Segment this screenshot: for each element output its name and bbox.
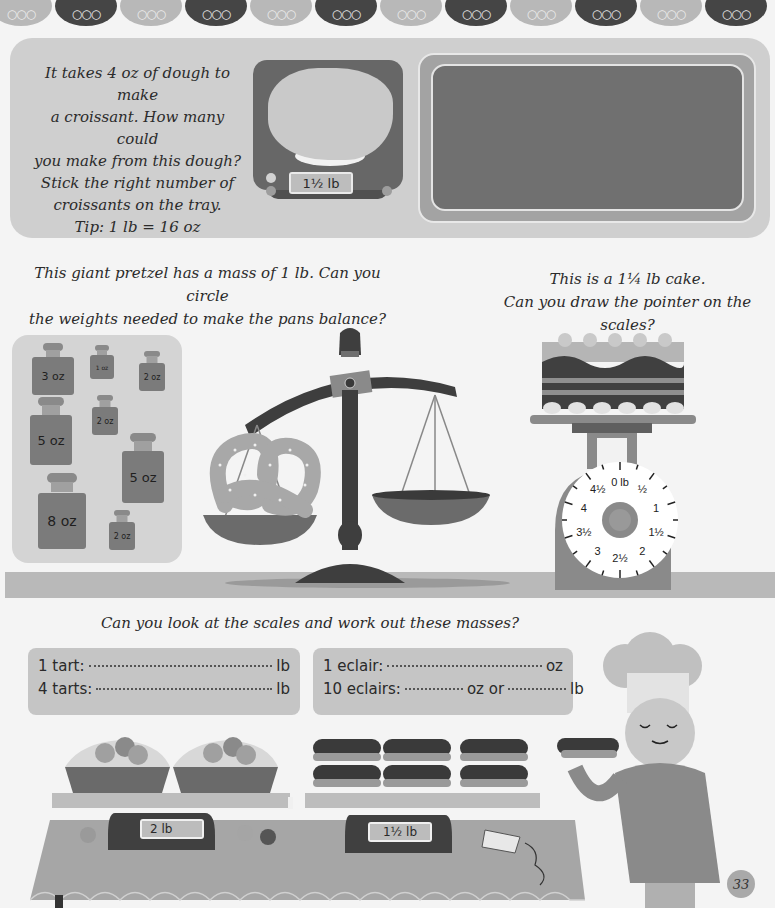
droplet-icon: ○○○ xyxy=(72,8,100,20)
weight-2oz[interactable]: 2 oz xyxy=(109,510,135,550)
droplet-icon: ○○○ xyxy=(462,8,490,20)
dial-label: 0 lb xyxy=(611,476,629,488)
answer-row: 10 eclairs: oz or lb xyxy=(323,678,563,701)
droplet-icon: ○○○ xyxy=(592,8,620,20)
dial-label: 3½ xyxy=(576,526,591,538)
scallop-decoration: ○○○ xyxy=(575,0,637,26)
weight-5oz[interactable]: 5 oz xyxy=(122,433,164,503)
masses-instructions: Can you look at the scales and work out … xyxy=(0,614,620,632)
croissant-instructions: It takes 4 oz of dough to make a croissa… xyxy=(30,62,245,238)
cake-instructions: This is a 1¼ lb cake. Can you draw the p… xyxy=(480,268,775,337)
dial-label: 2 xyxy=(639,545,645,557)
scale-knob-icon xyxy=(382,186,392,196)
dial-label: 4 xyxy=(581,502,587,514)
pretzel-icon xyxy=(218,441,313,510)
tart-icon xyxy=(65,737,170,793)
scallop-decoration: ○○○ xyxy=(120,0,182,26)
scallop-decoration: ○○○ xyxy=(640,0,702,26)
droplet-icon: ○○○ xyxy=(7,8,35,20)
scale-knob-icon xyxy=(266,173,276,183)
weights-panel: 3 oz 1 oz 2 oz 2 oz 5 oz 5 oz 8 oz 2 oz xyxy=(12,335,182,563)
answer-blank[interactable] xyxy=(96,688,272,690)
scallop-decoration: ○○○ xyxy=(315,0,377,26)
scallop-decoration: ○○○ xyxy=(250,0,312,26)
dough-blob xyxy=(268,68,393,160)
answer-row: 1 eclair: oz xyxy=(323,655,563,678)
tart-icon xyxy=(173,737,278,793)
weight-2oz[interactable]: 2 oz xyxy=(139,351,165,391)
scallop-decoration: ○○○ xyxy=(185,0,247,26)
droplet-icon: ○○○ xyxy=(527,8,555,20)
answer-row: 4 tarts: lb xyxy=(38,678,290,701)
weight-1oz[interactable]: 1 oz xyxy=(90,345,114,379)
sticker-drop-area[interactable] xyxy=(431,64,744,211)
droplet-icon: ○○○ xyxy=(657,8,685,20)
balance-scale-illustration xyxy=(195,325,495,590)
droplet-icon: ○○○ xyxy=(202,8,230,20)
eclair-scale-display: 1½ lb xyxy=(368,822,432,842)
dial-label: 1½ xyxy=(648,526,663,538)
droplet-icon: ○○○ xyxy=(267,8,295,20)
droplet-icon: ○○○ xyxy=(397,8,425,20)
dial-label: 2½ xyxy=(612,552,627,564)
weight-5oz[interactable]: 5 oz xyxy=(30,397,72,465)
scallop-decoration: ○○○ xyxy=(705,0,767,26)
pretzel-instructions: This giant pretzel has a mass of 1 lb. C… xyxy=(20,262,395,331)
droplet-icon: ○○○ xyxy=(137,8,165,20)
scallop-decoration: ○○○ xyxy=(0,0,52,26)
dial-label: 4½ xyxy=(590,483,605,495)
droplet-icon: ○○○ xyxy=(332,8,360,20)
scallop-decoration: ○○○ xyxy=(380,0,442,26)
scale-knob-icon xyxy=(266,186,276,196)
weight-8oz[interactable]: 8 oz xyxy=(38,473,86,549)
tart-scale-display: 2 lb xyxy=(140,819,204,839)
droplet-icon: ○○○ xyxy=(722,8,750,20)
answer-blank[interactable] xyxy=(89,665,273,667)
page-number: 33 xyxy=(727,870,755,898)
weight-2oz[interactable]: 2 oz xyxy=(92,395,118,435)
tart-answers-box: 1 tart: lb 4 tarts: lb xyxy=(28,648,300,715)
eclair-answers-box: 1 eclair: oz 10 eclairs: oz or lb xyxy=(313,648,573,715)
scallop-decoration: ○○○ xyxy=(445,0,507,26)
scallop-decoration: ○○○ xyxy=(55,0,117,26)
dial-label: 1 xyxy=(653,502,659,514)
cake-icon xyxy=(542,333,684,414)
scale-dial[interactable]: 0 lb½11½22½33½44½ xyxy=(555,455,685,585)
weight-3oz[interactable]: 3 oz xyxy=(32,343,74,395)
answer-blank[interactable] xyxy=(387,665,542,667)
dial-label: 3 xyxy=(595,545,601,557)
chef-illustration xyxy=(555,628,755,908)
answer-blank[interactable] xyxy=(405,688,463,690)
dough-scale-display: 1½ lb xyxy=(289,172,353,194)
scallop-decoration: ○○○ xyxy=(510,0,572,26)
dial-label: ½ xyxy=(638,483,647,495)
scalloped-border: ○○○○○○○○○○○○○○○○○○○○○○○○○○○○○○○○○○○○ xyxy=(0,0,775,26)
answer-row: 1 tart: lb xyxy=(38,655,290,678)
bakery-table-illustration xyxy=(30,725,590,908)
